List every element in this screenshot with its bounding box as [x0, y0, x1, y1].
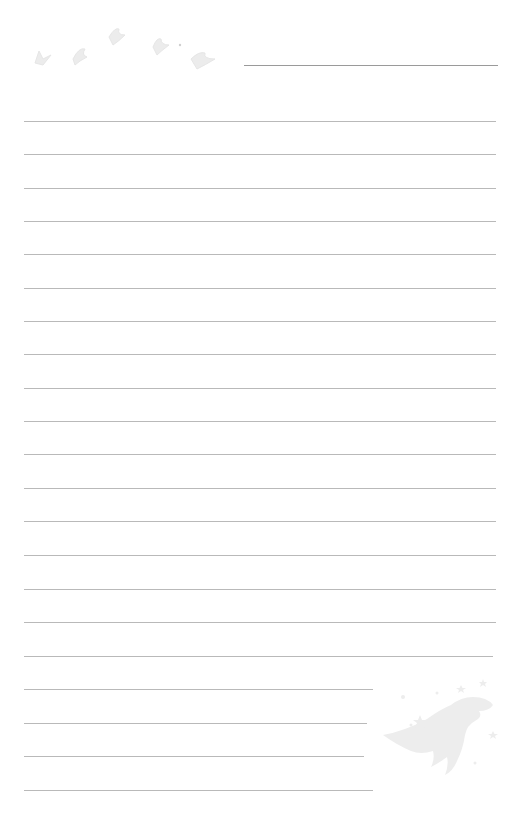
ruled-line: [24, 354, 496, 355]
ruled-line: [24, 790, 373, 791]
ruled-line: [24, 221, 496, 222]
ruled-line: [24, 622, 496, 623]
ruled-line: [24, 388, 496, 389]
ruled-line: [24, 254, 496, 255]
ruled-line: [24, 421, 496, 422]
ruled-line: [24, 589, 496, 590]
ruled-line: [24, 488, 496, 489]
birds-icon: [25, 15, 225, 75]
ruled-line: [24, 454, 496, 455]
ruled-line: [24, 555, 496, 556]
ruled-line: [24, 188, 496, 189]
ruled-line: [24, 321, 496, 322]
ruled-line: [24, 288, 496, 289]
ruled-line: [24, 723, 367, 724]
ruled-line: [24, 756, 364, 757]
ruled-line: [24, 521, 496, 522]
ruled-line: [24, 154, 496, 155]
ruled-line: [24, 121, 496, 122]
dinosaur-with-stars-icon: [375, 675, 505, 795]
lined-paper: [0, 0, 523, 814]
name-line: [244, 65, 498, 66]
ruled-line: [24, 656, 493, 657]
ruled-line: [24, 689, 373, 690]
